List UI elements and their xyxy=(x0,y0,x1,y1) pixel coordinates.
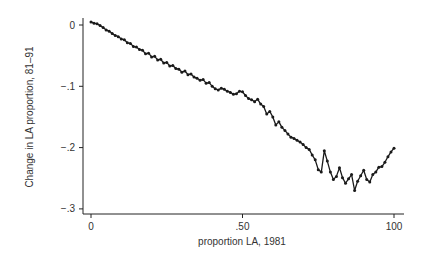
data-point-marker xyxy=(159,58,162,61)
x-tick-label: 0 xyxy=(88,221,94,232)
data-point-marker xyxy=(314,158,317,161)
data-point-marker xyxy=(186,73,189,76)
data-point-marker xyxy=(226,90,229,93)
data-point-marker xyxy=(305,146,308,149)
data-point-marker xyxy=(223,88,226,91)
data-point-marker xyxy=(311,153,314,156)
data-point-marker xyxy=(129,42,132,45)
y-tick-label: −.3 xyxy=(61,203,76,214)
data-point-marker xyxy=(350,173,353,176)
data-point-marker xyxy=(265,112,268,115)
data-point-marker xyxy=(232,93,235,96)
data-point-marker xyxy=(344,182,347,185)
data-point-marker xyxy=(244,94,247,97)
data-point-marker xyxy=(193,76,196,79)
y-tick-label: 0 xyxy=(69,20,75,31)
data-point-marker xyxy=(241,90,244,93)
data-point-marker xyxy=(205,82,208,85)
data-point-marker xyxy=(247,97,250,100)
data-point-marker xyxy=(323,149,326,152)
data-point-marker xyxy=(135,46,138,49)
data-point-marker xyxy=(277,120,280,123)
data-point-marker xyxy=(211,85,214,88)
data-point-marker xyxy=(199,79,202,82)
data-point-marker xyxy=(147,52,150,55)
data-point-marker xyxy=(189,73,192,76)
x-axis-title: proportion LA, 1981 xyxy=(198,236,286,247)
data-point-marker xyxy=(171,64,174,67)
data-point-marker xyxy=(162,62,165,65)
data-point-marker xyxy=(256,98,259,101)
data-point-marker xyxy=(268,110,271,113)
data-point-marker xyxy=(108,30,111,33)
data-point-marker xyxy=(202,78,205,81)
data-point-marker xyxy=(168,65,171,68)
x-tick-label: 100 xyxy=(386,221,403,232)
data-point-marker xyxy=(235,92,238,95)
data-point-marker xyxy=(217,88,220,91)
data-point-marker xyxy=(374,171,377,174)
data-point-marker xyxy=(99,24,102,27)
data-point-marker xyxy=(90,20,93,23)
data-point-marker xyxy=(386,155,389,158)
data-point-marker xyxy=(180,71,183,74)
data-point-marker xyxy=(329,171,332,174)
data-point-marker xyxy=(389,150,392,153)
data-point-marker xyxy=(144,52,147,55)
x-tick-label: .50 xyxy=(236,221,250,232)
data-point-marker xyxy=(150,55,153,58)
data-point-marker xyxy=(117,35,120,38)
data-point-marker xyxy=(220,87,223,90)
data-point-marker xyxy=(286,133,289,136)
x-axis-ticks: 0.50100 xyxy=(88,214,403,232)
data-point-marker xyxy=(308,148,311,151)
data-point-marker xyxy=(183,69,186,72)
data-point-marker xyxy=(299,141,302,144)
data-point-marker xyxy=(174,67,177,70)
data-point-marker xyxy=(250,98,253,101)
data-point-marker xyxy=(274,123,277,126)
data-point-marker xyxy=(380,165,383,168)
data-point-marker xyxy=(293,137,296,140)
data-point-marker xyxy=(271,115,274,118)
data-point-marker xyxy=(341,176,344,179)
data-point-marker xyxy=(259,103,262,106)
data-point-marker xyxy=(359,174,362,177)
data-point-marker xyxy=(253,100,256,103)
y-tick-label: −.2 xyxy=(61,142,76,153)
data-point-marker xyxy=(214,87,217,90)
data-point-marker xyxy=(326,160,329,163)
data-point-marker xyxy=(283,129,286,132)
data-point-marker xyxy=(93,22,96,25)
y-axis-title: Change in LA proportion, 81–91 xyxy=(24,46,35,188)
data-point-marker xyxy=(196,77,199,80)
data-point-marker xyxy=(320,171,323,174)
line-chart: 0−.1−.2−.3 0.50100 proportion LA, 1981 C… xyxy=(0,0,424,257)
data-point-marker xyxy=(141,49,144,52)
data-point-marker xyxy=(302,143,305,146)
data-point-marker xyxy=(377,166,380,169)
data-point-marker xyxy=(208,81,211,84)
data-point-marker xyxy=(371,173,374,176)
data-point-marker xyxy=(335,175,338,178)
data-point-marker xyxy=(365,178,368,181)
y-tick-label: −.1 xyxy=(61,81,76,92)
data-point-marker xyxy=(280,126,283,129)
data-point-marker xyxy=(132,45,135,48)
data-point-marker xyxy=(153,55,156,58)
data-point-marker xyxy=(165,61,168,64)
data-point-marker xyxy=(347,177,350,180)
data-point-marker xyxy=(96,22,99,25)
data-point-marker xyxy=(368,180,371,183)
data-point-marker xyxy=(393,147,396,150)
data-point-marker xyxy=(332,178,335,181)
data-point-marker xyxy=(338,166,341,169)
data-point-marker xyxy=(138,48,141,51)
data-point-marker xyxy=(383,161,386,164)
data-point-marker xyxy=(296,139,299,142)
data-point-marker xyxy=(356,180,359,183)
data-point-marker xyxy=(123,38,126,41)
data-point-marker xyxy=(353,189,356,192)
data-point-marker xyxy=(105,28,108,31)
data-point-marker xyxy=(126,41,129,44)
